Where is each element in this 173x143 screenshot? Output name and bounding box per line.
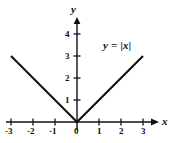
- y-tick-label-3: 3: [65, 52, 70, 61]
- x-axis: [6, 119, 159, 126]
- y-axis-arrow-icon: [74, 17, 81, 24]
- x-tick-label--2: -2: [27, 127, 35, 136]
- x-tick-label-1: 1: [97, 127, 102, 136]
- x-tick-label-3: 3: [141, 127, 146, 136]
- y-tick-label-1: 1: [65, 96, 70, 105]
- y-tick-label-2: 2: [65, 74, 70, 83]
- y-axis-label: y: [71, 4, 76, 15]
- x-axis-arrow-icon: [151, 119, 159, 126]
- x-tick-label-2: 2: [119, 127, 124, 136]
- x-tick-label--3: -3: [5, 127, 13, 136]
- absolute-value-graph-figure: y x -3 -2 -1 0 1 2 3 1 2 3 4 y = |x|: [0, 0, 173, 143]
- x-axis-label: x: [162, 116, 168, 127]
- y-tick-label-4: 4: [65, 30, 70, 39]
- x-tick-label-0: 0: [74, 127, 79, 136]
- equation-label: y = |x|: [103, 40, 131, 51]
- x-tick-label--1: -1: [49, 127, 57, 136]
- coordinate-plane-svg: [0, 0, 173, 143]
